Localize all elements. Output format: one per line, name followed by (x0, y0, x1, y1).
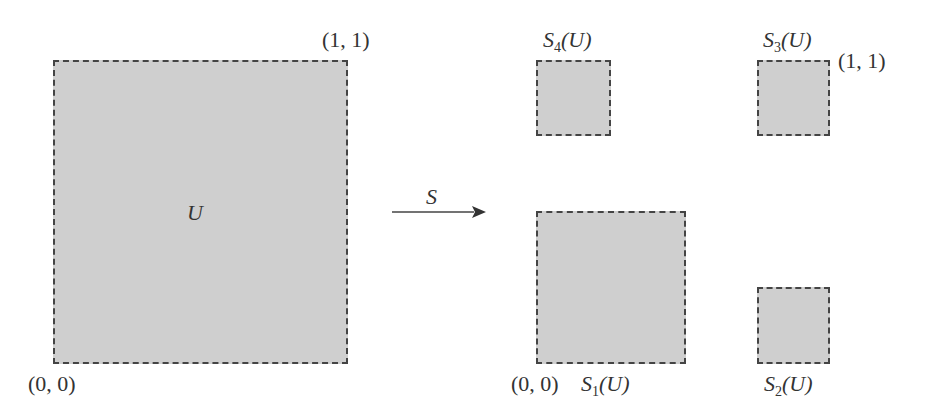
image-s2 (757, 287, 830, 364)
s1-sub: 1 (592, 384, 599, 399)
right-bottom-left-coord: (0, 0) (511, 371, 559, 397)
s1-arg: (U) (599, 371, 630, 396)
image-s4 (536, 60, 611, 136)
arrow-label: S (426, 184, 437, 210)
right-top-right-coord: (1, 1) (838, 48, 886, 74)
s3-arg: (U) (781, 27, 812, 52)
s2-arg: (U) (782, 371, 813, 396)
left-bottom-left-coord: (0, 0) (28, 371, 76, 397)
s3-sub: 3 (774, 40, 781, 55)
s3-name: S (763, 27, 774, 52)
image-s1 (536, 211, 686, 364)
s1-label: S1(U) (581, 371, 630, 400)
image-s3 (757, 60, 830, 136)
s2-label: S2(U) (764, 371, 813, 400)
s4-sub: 4 (554, 40, 561, 55)
s4-name: S (543, 27, 554, 52)
s2-name: S (764, 371, 775, 396)
left-top-right-coord: (1, 1) (322, 27, 370, 53)
s1-name: S (581, 371, 592, 396)
s3-label: S3(U) (763, 27, 812, 56)
s2-sub: 2 (775, 384, 782, 399)
s4-arg: (U) (561, 27, 592, 52)
arrow-s (390, 202, 490, 222)
square-u-label: U (187, 200, 203, 226)
s4-label: S4(U) (543, 27, 592, 56)
